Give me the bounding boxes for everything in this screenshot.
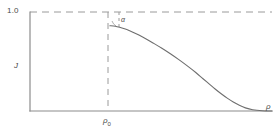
angle-arc [112,21,116,26]
rho-subscript: 0 [108,121,111,127]
y-axis-label: J [14,62,18,70]
x-axis-tick-label-rho-zero: ρ0 [103,117,111,127]
x-axis-label: ρ [266,103,271,111]
data-curve-j-rho [110,26,272,111]
figure-container: 1.0 J ρ0 ρ α [0,0,278,136]
chart-canvas [0,0,278,136]
y-axis-tick-label-1-0: 1.0 [7,7,19,15]
angle-annotation-label: α [121,16,125,23]
